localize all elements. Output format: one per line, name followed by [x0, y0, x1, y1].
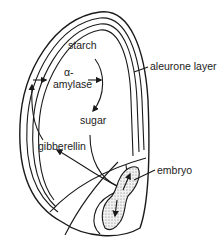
- label-gibberellin: gibberellin: [38, 140, 86, 152]
- aleurone-leader: [134, 67, 148, 72]
- aleurone-up-arrow: [32, 85, 43, 140]
- label-sugar: sugar: [80, 114, 107, 126]
- starch-to-sugar-arrow: [93, 59, 103, 111]
- label-alpha: α-: [64, 66, 74, 78]
- label-aleurone-layer: aleurone layer: [150, 60, 217, 72]
- label-embryo: embryo: [157, 164, 192, 176]
- seed-diagram: starch α- amylase sugar gibberellin aleu…: [0, 0, 221, 242]
- label-amylase: amylase: [53, 78, 92, 90]
- label-starch: starch: [68, 39, 97, 51]
- gibberellin-arrow: [57, 150, 117, 186]
- embryo: [102, 167, 139, 230]
